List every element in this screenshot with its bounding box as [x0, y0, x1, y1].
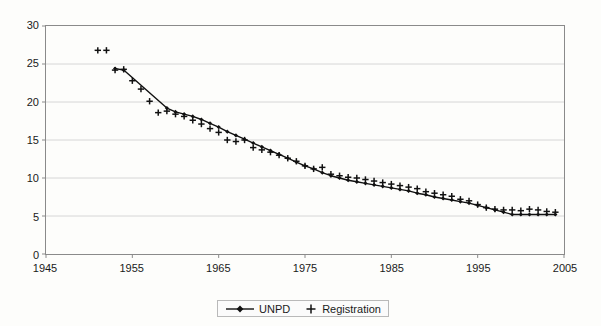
data-point-registration — [285, 155, 291, 161]
legend-entry-registration[interactable]: Registration — [304, 303, 381, 315]
data-point-registration — [535, 207, 541, 213]
data-point-registration — [526, 206, 532, 212]
data-point-registration — [129, 78, 135, 84]
y-axis-labels: 051015202530 — [0, 25, 39, 255]
data-point-registration — [518, 208, 524, 214]
data-point-registration — [544, 208, 550, 214]
data-point-registration — [509, 207, 515, 213]
plus-icon — [304, 303, 318, 315]
data-point-unpd — [527, 212, 531, 216]
data-point-registration — [233, 138, 239, 144]
legend-entry-unpd[interactable]: UNPD — [225, 303, 290, 315]
data-point-registration — [95, 47, 101, 53]
chart-legend: UNPD Registration — [217, 300, 389, 317]
y-tick-label: 25 — [5, 57, 39, 69]
series-layer — [46, 26, 564, 254]
data-point-registration — [371, 178, 377, 184]
data-point-registration — [474, 201, 480, 207]
y-tick-label: 15 — [5, 134, 39, 146]
data-point-registration — [449, 193, 455, 199]
x-tick-label: 2005 — [553, 262, 577, 274]
data-point-registration — [440, 192, 446, 198]
y-tick-label: 5 — [5, 211, 39, 223]
x-tick-label: 1955 — [119, 262, 143, 274]
y-tick-label: 30 — [5, 19, 39, 31]
data-point-registration — [190, 117, 196, 123]
data-point-registration — [103, 47, 109, 53]
y-tick-label: 10 — [5, 172, 39, 184]
y-tick-label: 20 — [5, 96, 39, 108]
data-point-registration — [146, 98, 152, 104]
data-point-registration — [207, 125, 213, 131]
data-point-registration — [302, 163, 308, 169]
data-point-registration — [354, 175, 360, 181]
data-point-registration — [397, 182, 403, 188]
x-tick-label: 1975 — [293, 262, 317, 274]
data-point-registration — [414, 185, 420, 191]
data-point-registration — [362, 176, 368, 182]
data-point-registration — [380, 179, 386, 185]
data-point-registration — [431, 190, 437, 196]
data-point-registration — [319, 164, 325, 170]
data-point-registration — [388, 181, 394, 187]
x-tick-label: 1945 — [33, 262, 57, 274]
data-point-registration — [112, 67, 118, 73]
data-point-registration — [155, 109, 161, 115]
x-tick-label: 1985 — [379, 262, 403, 274]
data-point-registration — [405, 184, 411, 190]
data-point-registration — [310, 166, 316, 172]
x-axis-labels: 1945195519651975198519952005 — [45, 262, 565, 280]
data-point-unpd — [234, 133, 238, 137]
data-point-registration — [215, 129, 221, 135]
data-point-unpd — [208, 121, 212, 125]
line-diamond-icon — [225, 303, 255, 315]
plot-area — [45, 25, 565, 255]
legend-label-unpd: UNPD — [259, 303, 290, 315]
data-point-registration — [483, 204, 489, 210]
legend-label-registration: Registration — [322, 303, 381, 315]
data-point-unpd — [320, 171, 324, 175]
data-point-registration — [250, 144, 256, 150]
x-tick-label: 1995 — [466, 262, 490, 274]
chart-figure: 051015202530 194519551965197519851995200… — [0, 0, 601, 326]
data-point-registration — [492, 206, 498, 212]
series-line-unpd — [115, 69, 555, 215]
data-point-registration — [198, 121, 204, 127]
y-tick-label: 0 — [5, 249, 39, 261]
x-tick-label: 1965 — [206, 262, 230, 274]
data-point-registration — [224, 137, 230, 143]
